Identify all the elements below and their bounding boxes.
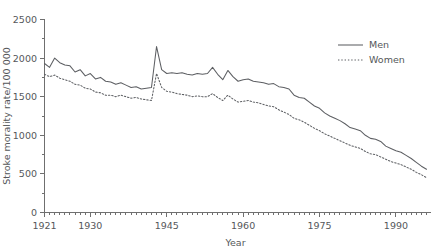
y-axis-group: 05001000150020002500 xyxy=(13,14,45,218)
axis-titles-group: YearStroke morality rate/100 000 xyxy=(1,47,246,248)
data-series-group xyxy=(45,47,427,178)
series-line-women xyxy=(45,74,427,178)
x-axis-tick-label: 1990 xyxy=(384,220,408,231)
x-axis-title: Year xyxy=(224,237,245,248)
x-axis-tick-label: 1930 xyxy=(78,220,102,231)
x-axis-tick-label: 1960 xyxy=(231,220,255,231)
y-axis-tick-label: 1000 xyxy=(13,130,37,141)
x-axis-tick-label: 1921 xyxy=(32,220,56,231)
stroke-mortality-chart: 05001000150020002500 1921193019451960197… xyxy=(0,0,438,251)
y-axis-tick-label: 2500 xyxy=(13,14,37,25)
x-axis-tick-label: 1945 xyxy=(155,220,179,231)
y-axis-tick-label: 2000 xyxy=(13,53,37,64)
y-axis-tick-label: 0 xyxy=(31,207,37,218)
y-axis-title: Stroke morality rate/100 000 xyxy=(1,47,12,185)
y-axis-tick-label: 1500 xyxy=(13,91,37,102)
legend-label-women: Women xyxy=(369,54,405,65)
legend-label-men: Men xyxy=(369,39,389,50)
chart-svg: 05001000150020002500 1921193019451960197… xyxy=(0,0,438,251)
y-axis-tick-label: 500 xyxy=(19,168,37,179)
legend-group: MenWomen xyxy=(338,39,405,65)
x-axis-group: 192119301945196019751990 xyxy=(32,213,430,231)
x-axis-tick-label: 1975 xyxy=(307,220,331,231)
